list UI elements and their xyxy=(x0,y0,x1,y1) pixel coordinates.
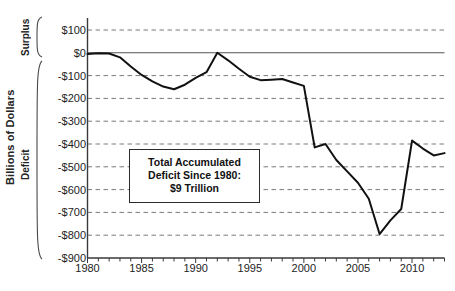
x-tick-label: 2000 xyxy=(292,262,316,274)
callout-line-1: Total Accumulated xyxy=(134,156,255,169)
data-series-line xyxy=(88,53,445,234)
total-accumulated-deficit-callout: Total Accumulated Deficit Since 1980: $9… xyxy=(129,149,260,203)
x-tick-label: 1985 xyxy=(129,262,153,274)
x-tick-label: 1980 xyxy=(75,262,99,274)
callout-line-2: Deficit Since 1980: xyxy=(134,169,255,182)
axis-lines xyxy=(88,18,445,258)
callout-line-3: $9 Trillion xyxy=(134,182,255,195)
x-tick-label: 1990 xyxy=(183,262,207,274)
plot-area xyxy=(0,0,455,291)
x-tick-label: 2005 xyxy=(346,262,370,274)
x-tick-label: 2010 xyxy=(400,262,424,274)
gridlines xyxy=(88,30,445,235)
budget-deficit-chart: Billions of Dollars Surplus Deficit $100… xyxy=(0,0,455,291)
x-tick-label: 1995 xyxy=(238,262,262,274)
